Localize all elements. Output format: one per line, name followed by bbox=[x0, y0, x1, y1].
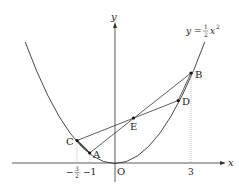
segment-cd bbox=[77, 101, 178, 141]
tick-three: 3 bbox=[188, 167, 194, 177]
x-axis-arrow-icon bbox=[220, 161, 226, 165]
curve-label-den: 2 bbox=[204, 31, 208, 38]
origin-label: O bbox=[117, 166, 125, 177]
label-d: D bbox=[182, 96, 190, 107]
tick-neg-three-halves-sign: − bbox=[66, 167, 74, 177]
x-axis-label: x bbox=[228, 157, 234, 168]
point-b bbox=[189, 71, 192, 74]
segment-ca bbox=[77, 141, 90, 154]
y-axis-label: y bbox=[110, 11, 117, 22]
tick-neg-three-halves-den: 2 bbox=[75, 172, 79, 179]
point-c bbox=[75, 139, 78, 142]
tick-neg-three-halves-num: 3 bbox=[75, 165, 79, 172]
segment-ab bbox=[90, 73, 191, 153]
point-d bbox=[177, 99, 180, 102]
parabola-diagram: A B C D E x y O − 3 2 −1 3 y = 1 2 x 2 bbox=[0, 0, 239, 189]
y-axis-arrow-icon bbox=[113, 22, 117, 28]
label-a: A bbox=[92, 149, 101, 160]
point-e bbox=[132, 116, 135, 119]
curve-label-exp: 2 bbox=[216, 23, 220, 30]
label-b: B bbox=[195, 69, 202, 80]
curve-label-eq: = bbox=[194, 26, 202, 36]
label-e: E bbox=[130, 121, 137, 132]
tick-neg-one: −1 bbox=[83, 167, 96, 177]
point-a bbox=[88, 151, 91, 154]
curve-label-lhs: y bbox=[185, 26, 192, 36]
label-c: C bbox=[66, 136, 74, 147]
curve-label-num: 1 bbox=[204, 23, 208, 30]
curve-label-var: x bbox=[210, 26, 215, 36]
